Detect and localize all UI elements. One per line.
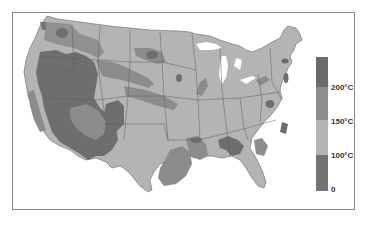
zone-pa-hot — [284, 73, 289, 83]
legend-label-200: 200°C — [331, 84, 353, 92]
zone-carolina-warm — [254, 138, 268, 156]
legend-swatch-0-100 — [316, 155, 328, 191]
legend-label-150: 150°C — [331, 118, 353, 126]
zone-ny-hot — [282, 59, 289, 64]
zone-oregon-hot-spot — [56, 28, 68, 38]
legend-swatch-150-200 — [316, 87, 328, 120]
zone-va-hot — [266, 100, 275, 108]
zone-minnesota-hot — [176, 74, 182, 82]
zone-nc-coast-hot — [280, 122, 288, 134]
legend-swatch-above-200 — [316, 57, 328, 87]
temperature-legend — [316, 57, 328, 191]
legend-label-100: 100°C — [331, 152, 353, 160]
legend-label-0: 0 — [331, 186, 335, 194]
legend-swatch-100-150 — [316, 120, 328, 155]
zone-south-dakota-hot — [146, 51, 158, 59]
